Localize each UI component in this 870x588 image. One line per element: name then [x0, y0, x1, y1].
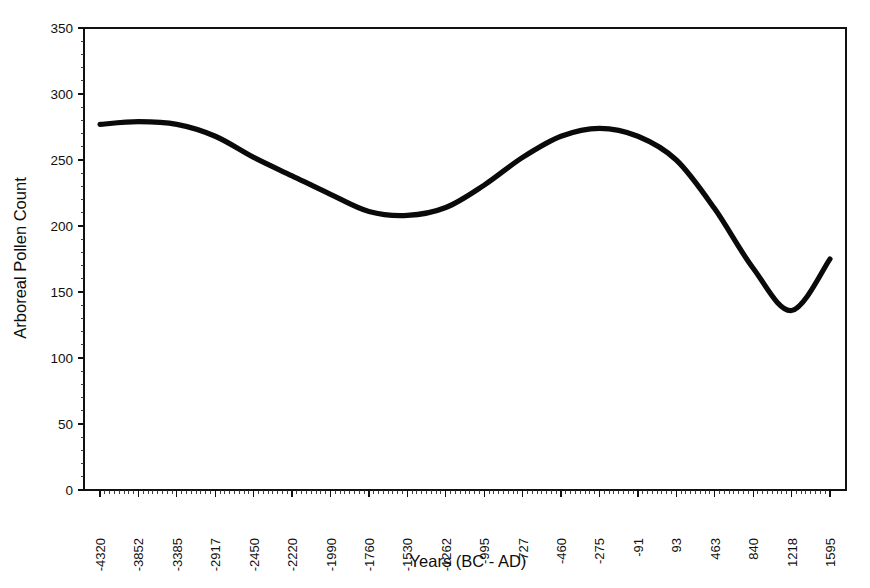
y-tick-label: 0: [65, 483, 73, 498]
y-tick-label: 200: [50, 219, 73, 234]
x-tick-label: 840: [746, 538, 761, 560]
x-tick-label: -91: [631, 538, 646, 557]
x-tick-label: -2917: [208, 538, 223, 571]
x-tick-label: -2450: [247, 538, 262, 571]
y-tick-label: 350: [50, 21, 73, 36]
y-tick-label: 250: [50, 153, 73, 168]
chart-background: [0, 0, 870, 588]
y-tick-label: 150: [50, 285, 73, 300]
x-tick-label: -460: [554, 538, 569, 564]
pollen-count-chart: 050100150200250300350 -4320-3852-3385-29…: [0, 0, 870, 588]
x-axis-title: Years (BC - AD): [410, 552, 527, 570]
x-tick-label: -1760: [362, 538, 377, 571]
y-axis-title: Arboreal Pollen Count: [11, 177, 29, 339]
x-tick-label: -2220: [285, 538, 300, 571]
x-tick-label: -275: [592, 538, 607, 564]
x-tick-label: -3385: [170, 538, 185, 571]
x-tick-label: -1990: [324, 538, 339, 571]
x-tick-label: 1595: [823, 538, 838, 567]
y-tick-label: 300: [50, 87, 73, 102]
x-tick-label: 1218: [785, 538, 800, 567]
x-tick-label: 93: [669, 538, 684, 552]
x-tick-label: -4320: [93, 538, 108, 571]
chart-canvas: 050100150200250300350 -4320-3852-3385-29…: [0, 0, 870, 588]
x-tick-label: 463: [708, 538, 723, 560]
x-tick-label: -3852: [131, 538, 146, 571]
y-tick-label: 50: [58, 417, 73, 432]
y-tick-label: 100: [50, 351, 73, 366]
